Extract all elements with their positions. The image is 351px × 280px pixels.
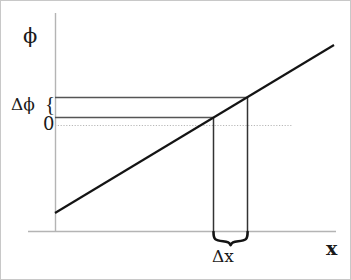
delta-x-label: Δx (212, 248, 234, 265)
delta-phi-label: Δϕ (11, 96, 35, 113)
y-axis-label: ϕ (23, 26, 37, 47)
delta-phi-brace-icon: { (45, 94, 55, 115)
zero-label: 0 (43, 115, 54, 133)
figure-canvas: ϕ Δϕ { 0 Δx x (0, 0, 351, 280)
phi-curve-line (55, 45, 334, 213)
plot-svg (1, 1, 351, 280)
x-axis-label: x (326, 239, 337, 258)
delta-x-brace-icon (214, 232, 248, 245)
